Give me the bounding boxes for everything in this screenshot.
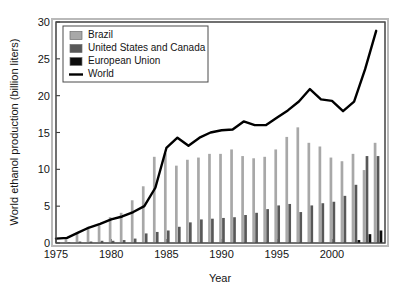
chart-legend: BrazilUnited States and CanadaEuropean U… xyxy=(63,26,208,82)
y-tick-label: 25 xyxy=(38,53,50,65)
x-tick-label: 1985 xyxy=(154,248,178,260)
bar xyxy=(296,127,299,243)
bar xyxy=(263,157,266,243)
x-tick-label: 1995 xyxy=(265,248,289,260)
bar xyxy=(222,218,225,243)
bar xyxy=(277,205,280,243)
y-tick-label: 15 xyxy=(38,127,50,139)
x-tick-label: 1975 xyxy=(44,248,68,260)
bar xyxy=(377,156,380,243)
legend-label: World xyxy=(88,68,114,79)
legend-label: Brazil xyxy=(88,29,113,40)
chart-figure: 051015202530 197519801985199019952000 Wo… xyxy=(0,0,404,292)
bar xyxy=(330,158,333,243)
bar xyxy=(380,230,383,243)
bar xyxy=(369,234,372,243)
bar xyxy=(131,200,134,243)
bar xyxy=(374,143,377,243)
bar xyxy=(98,225,101,243)
bar xyxy=(285,137,288,243)
bar xyxy=(189,222,192,243)
legend-label: European Union xyxy=(88,55,160,66)
bar xyxy=(352,154,355,243)
bar xyxy=(321,203,324,243)
bar xyxy=(153,157,156,243)
bar xyxy=(299,212,302,243)
bar xyxy=(363,170,366,243)
bar xyxy=(333,202,336,243)
bar xyxy=(344,196,347,243)
bar xyxy=(255,213,258,243)
legend-box xyxy=(63,26,208,82)
y-tick-label: 5 xyxy=(44,200,50,212)
bar xyxy=(175,166,178,243)
legend-swatch-icon xyxy=(70,45,82,53)
y-tick-label: 30 xyxy=(38,16,50,28)
bar xyxy=(211,219,214,243)
bar xyxy=(230,149,233,243)
ethanol-production-chart: 051015202530 197519801985199019952000 Wo… xyxy=(0,0,404,292)
legend-swatch-icon xyxy=(70,32,82,40)
bar xyxy=(366,156,369,243)
bar xyxy=(178,227,181,243)
legend-label: United States and Canada xyxy=(88,42,206,53)
x-tick-label: 1980 xyxy=(99,248,123,260)
bar xyxy=(288,204,291,243)
y-tick-label: 10 xyxy=(38,163,50,175)
bar xyxy=(145,233,148,243)
bar xyxy=(197,158,200,243)
legend-swatch-icon xyxy=(70,58,82,66)
bar xyxy=(164,153,167,243)
bar xyxy=(186,160,189,243)
x-axis-title: Year xyxy=(209,272,232,284)
bar xyxy=(208,154,211,243)
bar xyxy=(200,219,203,243)
bar xyxy=(252,158,255,243)
bar xyxy=(355,185,358,243)
bar xyxy=(319,147,322,244)
bar xyxy=(241,156,244,243)
bar xyxy=(233,217,236,243)
bar xyxy=(65,239,68,243)
bar xyxy=(341,161,344,243)
bar xyxy=(308,143,311,243)
x-tick-label: 2000 xyxy=(320,248,344,260)
bar xyxy=(274,149,277,243)
bar xyxy=(156,232,159,243)
bar xyxy=(266,209,269,243)
bar xyxy=(167,230,170,243)
bar xyxy=(134,239,137,243)
y-tick-label: 20 xyxy=(38,90,50,102)
bar xyxy=(244,215,247,243)
bar xyxy=(142,186,145,243)
y-axis-title: World ethanol production (billion liters… xyxy=(8,39,20,226)
x-tick-label: 1990 xyxy=(209,248,233,260)
bar xyxy=(219,154,222,243)
bar xyxy=(310,205,313,243)
